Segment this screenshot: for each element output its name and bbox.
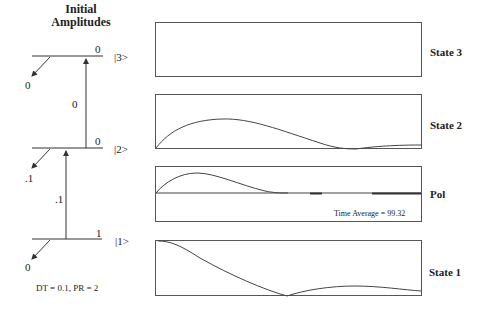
decay-arrow-1	[32, 240, 50, 259]
ket-1-label: |1>	[115, 236, 129, 247]
decay-arrow-2	[32, 149, 50, 168]
transition-2-3-label: 0	[72, 99, 78, 110]
level-3-decay-amplitude: 0	[25, 80, 31, 91]
state2-curve	[156, 119, 421, 149]
level-1-decay-amplitude: 0	[25, 262, 31, 273]
time-average-label: Time Average = 99.32	[334, 209, 405, 218]
level-2-decay-amplitude: .1	[25, 173, 33, 184]
decay-arrow-3	[32, 57, 50, 76]
ket-2-label: |2>	[114, 144, 128, 155]
pol-curve	[156, 173, 288, 193]
level-2-amplitude: 0	[95, 136, 101, 147]
state2-plot-frame	[156, 95, 422, 149]
ket-3-label: |3>	[114, 52, 128, 63]
energy-level-diagram	[0, 0, 486, 315]
level-1-amplitude: 1	[96, 228, 102, 239]
state3-plot-frame	[156, 23, 422, 77]
level-3-amplitude: 0	[95, 44, 101, 55]
parameters-label: DT = 0.1, PR = 2	[36, 283, 98, 293]
state1-curve	[158, 241, 421, 296]
pol-label: Pol	[430, 188, 445, 200]
transition-1-2-label: .1	[55, 194, 63, 205]
state1-label: State 1	[429, 266, 461, 278]
state3-label: State 3	[430, 46, 462, 58]
state2-label: State 2	[430, 119, 462, 131]
